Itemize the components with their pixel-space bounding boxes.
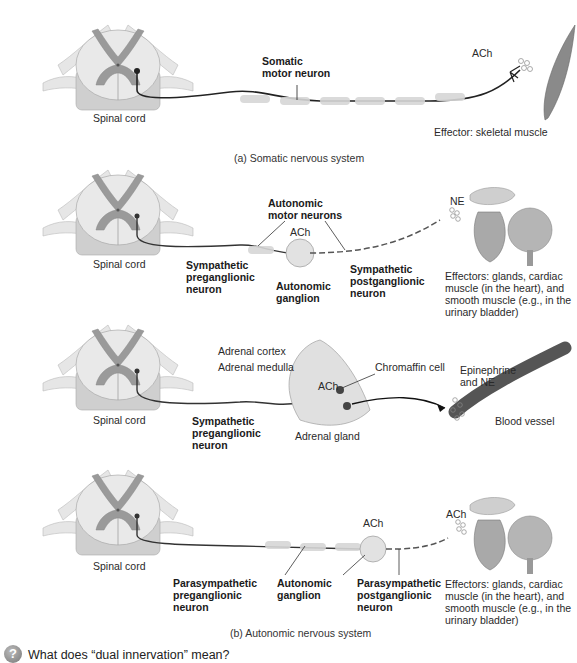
preganglionic-label: Sympathetic <box>192 415 254 427</box>
effectors-label: urinary bladder) <box>445 614 519 626</box>
panel-a-caption: (a) Somatic nervous system <box>234 152 364 164</box>
ganglion-label: Autonomic <box>276 280 331 292</box>
review-question: What does “dual innervation” mean? <box>28 648 230 662</box>
hormones-label: Epinephrine <box>460 364 516 376</box>
autonomic-ganglion-icon <box>286 239 314 267</box>
preganglionic-label: Sympathetic <box>186 259 248 271</box>
effector-nt-label: ACh <box>446 508 466 520</box>
skeletal-muscle-icon <box>544 25 575 120</box>
somatic-neuron-label: Somatic <box>262 55 303 67</box>
effector-label: Effector: skeletal muscle <box>434 126 548 138</box>
spinal-cord-label: Spinal cord <box>93 258 146 270</box>
preganglionic-label: neuron <box>192 439 228 451</box>
preganglionic-label: Parasympathetic <box>173 577 257 589</box>
preganglionic-label: preganglionic <box>192 427 261 439</box>
hormones-label: and NE <box>460 376 495 388</box>
ganglion-label: Autonomic <box>277 577 332 589</box>
spinal-cord-label: Spinal cord <box>93 560 146 572</box>
preganglionic-label: preganglionic <box>186 271 255 283</box>
ganglion-nt-label: ACh <box>363 517 383 529</box>
spinal-cord-label: Spinal cord <box>93 112 146 124</box>
adrenal-nt-label: ACh <box>318 380 338 392</box>
ganglion-label: ganglion <box>276 292 320 304</box>
effectors-label: muscle (in the heart), and <box>445 590 564 602</box>
postganglionic-label: neuron <box>357 601 393 613</box>
effectors-label: Effectors: glands, cardiac <box>445 270 563 282</box>
adrenal-gland-label: Adrenal gland <box>295 430 360 442</box>
urinary-bladder-icon <box>508 208 552 252</box>
postganglionic-label: postganglionic <box>357 589 432 601</box>
adrenal-medulla-label: Adrenal medulla <box>218 361 294 373</box>
chromaffin-cell-label: Chromaffin cell <box>375 361 445 373</box>
effectors-label: smooth muscle (e.g., in the <box>445 602 571 614</box>
effectors-label: muscle (in the heart), and <box>445 282 564 294</box>
preganglionic-label: neuron <box>173 601 209 613</box>
effectors-label: Effectors: glands, cardiac <box>445 578 563 590</box>
blood-vessel-label: Blood vessel <box>495 415 555 427</box>
panel-b-caption: (b) Autonomic nervous system <box>230 627 371 639</box>
neurotransmitter-label: ACh <box>472 47 492 59</box>
adrenal-cortex-label: Adrenal cortex <box>218 345 286 357</box>
somatic-neuron-label: motor neuron <box>262 67 330 79</box>
effectors-label: urinary bladder) <box>445 306 519 318</box>
heart-icon <box>474 212 505 262</box>
autonomic-ganglion-icon <box>360 536 386 562</box>
postganglionic-label: neuron <box>350 287 386 299</box>
autonomic-motor-neurons-label: Autonomic <box>268 197 323 209</box>
postganglionic-label: postganglionic <box>350 275 425 287</box>
autonomic-motor-neurons-label: motor neurons <box>268 209 342 221</box>
gland-icon <box>470 188 515 205</box>
postganglionic-label: Parasympathetic <box>357 577 441 589</box>
preganglionic-label: preganglionic <box>173 589 242 601</box>
effector-nt-label: NE <box>450 195 465 207</box>
question-icon: ? <box>4 645 22 663</box>
effectors-label: smooth muscle (e.g., in the <box>445 294 571 306</box>
ganglion-nt-label: ACh <box>290 226 310 238</box>
postganglionic-label: Sympathetic <box>350 263 412 275</box>
ganglion-label: ganglion <box>277 589 321 601</box>
preganglionic-label: neuron <box>186 283 222 295</box>
spinal-cord-label: Spinal cord <box>93 414 146 426</box>
